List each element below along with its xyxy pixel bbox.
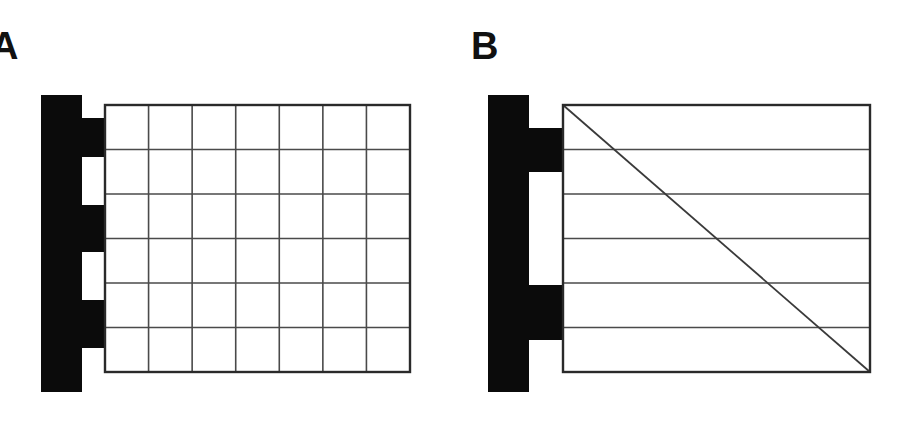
clamp-main-bar — [488, 95, 529, 392]
clamp-bracket — [41, 95, 105, 392]
figure-canvas: A B — [0, 0, 900, 444]
clamp-tooth — [82, 205, 105, 252]
clamp-main-bar — [41, 95, 82, 392]
grid-border — [563, 105, 870, 372]
clamp-tooth — [82, 118, 105, 157]
clamp-tooth — [529, 128, 563, 172]
grid-panel-a — [105, 105, 410, 372]
panel-b: B — [450, 0, 900, 444]
clamp-tooth — [82, 300, 105, 348]
clamp-bracket — [488, 95, 563, 392]
grid-border — [105, 105, 410, 372]
grid-panel-b — [563, 105, 870, 372]
panel-b-drawing — [450, 0, 900, 444]
clamp-tooth — [529, 285, 563, 340]
